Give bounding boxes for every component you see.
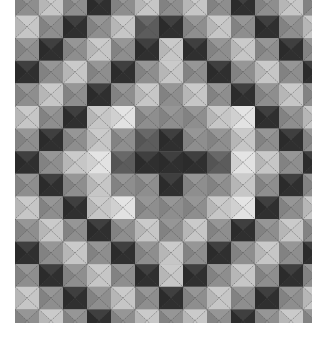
quilt-square [111, 61, 135, 84]
quilt-square [183, 309, 207, 323]
quilt-square [207, 174, 231, 197]
quilt-square [135, 61, 159, 84]
quilt-square [135, 38, 159, 61]
quilt-square [63, 38, 87, 61]
quilt-square [255, 219, 279, 242]
quilt-square [231, 129, 255, 152]
quilt-square [87, 151, 111, 174]
quilt-square [279, 151, 303, 174]
quilt-square [15, 242, 39, 265]
quilt-square [135, 242, 159, 265]
quilt-square [231, 242, 255, 265]
quilt-square [279, 16, 303, 39]
quilt-square [255, 309, 279, 323]
quilt-square [111, 129, 135, 152]
quilt-square [111, 174, 135, 197]
quilt-square [255, 0, 279, 16]
quilt-square [207, 61, 231, 84]
quilt-square [279, 196, 303, 219]
quilt-square [159, 151, 183, 174]
quilt-square [135, 83, 159, 106]
quilt-square [207, 309, 231, 323]
quilt-square [231, 38, 255, 61]
quilt-square [15, 151, 39, 174]
quilt-square [255, 196, 279, 219]
quilt-square [39, 38, 63, 61]
quilt-square [207, 38, 231, 61]
quilt-square [111, 242, 135, 265]
quilt-square [183, 61, 207, 84]
quilt-square [183, 16, 207, 39]
quilt-square [15, 16, 39, 39]
quilt-square [39, 83, 63, 106]
quilt-square [111, 264, 135, 287]
quilt-square [15, 264, 39, 287]
quilt-square [87, 38, 111, 61]
quilt-square [207, 106, 231, 129]
quilt-square [183, 174, 207, 197]
quilt-square [303, 219, 312, 242]
quilt-square [63, 83, 87, 106]
quilt-square [183, 38, 207, 61]
quilt-square [303, 196, 312, 219]
quilt-square [159, 219, 183, 242]
quilt-square [39, 106, 63, 129]
quilt-square [159, 287, 183, 310]
quilt-square [279, 61, 303, 84]
quilt-square [183, 264, 207, 287]
quilt-square [63, 219, 87, 242]
quilt-square [87, 219, 111, 242]
quilt-square [255, 129, 279, 152]
quilt-square [303, 83, 312, 106]
quilt-square [159, 242, 183, 265]
quilt-square [231, 151, 255, 174]
quilt-square [183, 83, 207, 106]
quilt-square [231, 106, 255, 129]
quilt-square [39, 264, 63, 287]
quilt-square [135, 309, 159, 323]
quilt-square [231, 0, 255, 16]
quilt-square [279, 287, 303, 310]
quilt-square [279, 0, 303, 16]
quilt-square [135, 0, 159, 16]
quilt-square [159, 0, 183, 16]
quilt-square [207, 16, 231, 39]
quilt-square [159, 38, 183, 61]
quilt-square [303, 61, 312, 84]
quilt-square [15, 309, 39, 323]
quilt-square [63, 151, 87, 174]
quilt-square [255, 264, 279, 287]
quilt-square [303, 309, 312, 323]
quilt-square [279, 219, 303, 242]
quilt-square [207, 264, 231, 287]
quilt-square [135, 151, 159, 174]
quilt-square [159, 106, 183, 129]
quilt-square [63, 106, 87, 129]
quilt-square [183, 106, 207, 129]
quilt-square [111, 16, 135, 39]
quilt-square [63, 309, 87, 323]
quilt-square [111, 151, 135, 174]
quilt-square [255, 83, 279, 106]
quilt-square [87, 264, 111, 287]
quilt-square [183, 151, 207, 174]
quilt-square [111, 196, 135, 219]
quilt-square [39, 287, 63, 310]
quilt-square [255, 106, 279, 129]
quilt-square [63, 264, 87, 287]
quilt-square [15, 38, 39, 61]
quilt-square [87, 242, 111, 265]
quilt-square [135, 129, 159, 152]
quilt-square [207, 83, 231, 106]
quilt-square [207, 219, 231, 242]
quilt-square [111, 309, 135, 323]
quilt-square [303, 287, 312, 310]
quilt-square [255, 151, 279, 174]
quilt-square [87, 174, 111, 197]
quilt-square [111, 0, 135, 16]
quilt-square [279, 106, 303, 129]
quilt-square [207, 151, 231, 174]
quilt-square [87, 0, 111, 16]
quilt-square [303, 264, 312, 287]
quilt-grid [15, 0, 312, 323]
